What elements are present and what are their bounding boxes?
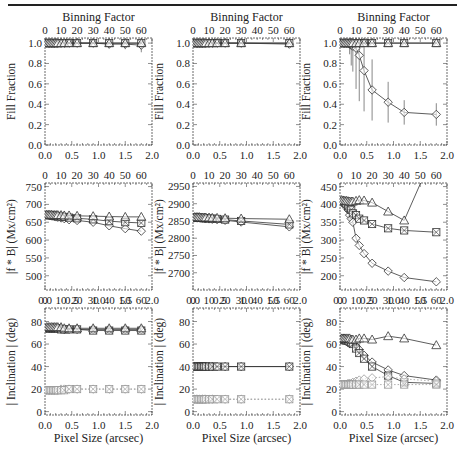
top-tick-label: 50 [120,24,132,36]
panel-r3c1: 0204060800.00.51.01.52.00102030405060Pix… [5,294,159,445]
x-tick-label: 1.5 [413,419,427,431]
y-tick-label: 2700 [168,267,191,279]
top-tick-label: 20 [367,169,379,181]
y-tick-label: 2800 [168,232,191,244]
y-axis-title: Fill Fraction [300,63,312,120]
x-tick-label: 0.0 [333,419,347,431]
top-tick-label: 20 [72,169,84,181]
x-tick-label: 1.0 [387,419,401,431]
y-tick-label: 2850 [168,215,191,227]
x-tick-label: 1.0 [387,149,401,161]
y-tick-label: 0.2 [176,119,190,131]
top-tick-label: 30 [236,294,248,306]
top-tick-label: 60 [136,24,148,36]
y-tick-label: 60 [179,338,191,350]
y-tick-label: 0.4 [323,98,337,110]
x-tick-label: 1.5 [266,419,280,431]
y-tick-label: 20 [326,383,338,395]
x-axis-title: Pixel Size (arcsec) [54,431,143,445]
top-tick-label: 60 [136,169,148,181]
top-tick-label: 20 [220,24,232,36]
top-tick-label: 10 [351,294,363,306]
y-tick-label: 80 [31,316,43,328]
x-tick-label: 2.0 [293,294,307,306]
panel-r2c1: 5005506006507007500.00.51.01.52.00102030… [5,169,159,306]
top-tick-label: 40 [399,294,411,306]
x-tick-label: 0.0 [186,419,200,431]
x-tick-label: 1.0 [92,419,106,431]
top-axis-title: Binning Factor [357,10,429,24]
top-tick-label: 30 [88,169,100,181]
top-tick-label: 60 [284,294,296,306]
y-axis-title: |f * B| (Mx/cm²) [5,199,18,274]
y-tick-label: 0 [332,406,338,418]
y-tick-label: 0.2 [323,119,337,131]
y-tick-label: 0.2 [28,119,42,131]
top-tick-label: 0 [337,169,343,181]
top-tick-label: 20 [72,294,84,306]
y-tick-label: 0.8 [323,57,337,69]
panel-r3c2: 0204060800.00.51.01.52.00102030405060Pix… [153,294,307,445]
top-tick-label: 30 [236,169,248,181]
y-tick-label: 500 [26,270,43,282]
y-tick-label: 750 [26,181,43,193]
y-tick-label: 450 [321,181,338,193]
y-tick-label: 1.0 [323,37,337,49]
top-tick-label: 30 [236,24,248,36]
top-tick-label: 40 [252,294,264,306]
y-tick-label: 550 [26,252,43,264]
y-tick-label: 40 [179,361,191,373]
x-tick-label: 1.5 [413,149,427,161]
x-tick-label: 0.5 [213,149,227,161]
x-tick-label: 2.0 [145,149,159,161]
y-tick-label: 0.4 [28,98,42,110]
y-tick-label: 60 [326,338,338,350]
top-tick-label: 50 [415,24,427,36]
top-tick-label: 30 [383,24,395,36]
y-tick-label: 0.4 [176,98,190,110]
top-tick-label: 0 [190,24,196,36]
top-tick-label: 20 [367,24,379,36]
top-tick-label: 60 [431,294,443,306]
top-tick-label: 60 [136,294,148,306]
top-tick-label: 0 [42,24,48,36]
top-tick-label: 60 [284,169,296,181]
top-tick-label: 0 [190,169,196,181]
figure-grid: 0.00.20.40.60.81.00.00.51.01.52.00102030… [0,0,465,451]
top-tick-label: 40 [104,294,116,306]
top-tick-label: 10 [204,294,216,306]
top-tick-label: 0 [337,24,343,36]
y-tick-label: 40 [326,361,338,373]
y-tick-label: 20 [31,383,43,395]
top-tick-label: 40 [399,169,411,181]
y-tick-label: 200 [321,270,338,282]
top-tick-label: 10 [56,294,68,306]
top-tick-label: 50 [120,169,132,181]
panel-r1c1: 0.00.20.40.60.81.00.00.51.01.52.00102030… [5,10,159,161]
y-tick-label: 250 [321,252,338,264]
top-tick-label: 20 [72,24,84,36]
y-tick-label: 20 [179,383,191,395]
x-tick-label: 0.5 [65,149,79,161]
y-tick-label: 0.8 [176,57,190,69]
top-tick-label: 10 [351,169,363,181]
y-axis-title: Fill Fraction [5,63,17,120]
y-tick-label: 2750 [168,249,191,261]
y-axis-title: | Inclination | (deg) [153,318,166,405]
y-tick-label: 0.6 [323,78,337,90]
top-tick-label: 50 [268,294,280,306]
y-tick-label: 60 [31,338,43,350]
y-tick-label: 2950 [168,180,191,192]
y-tick-label: 0.6 [176,78,190,90]
panel-r3c3: 0204060800.00.51.01.52.00102030405060Pix… [300,294,454,445]
x-tick-label: 0.5 [360,419,374,431]
y-tick-label: 2900 [168,198,191,210]
top-tick-label: 60 [431,169,443,181]
x-tick-label: 0.5 [360,149,374,161]
panel-r1c3: 0.00.20.40.60.81.00.00.51.01.52.00102030… [300,10,454,161]
y-tick-label: 700 [26,198,43,210]
y-axis-title: | Inclination | (deg) [300,318,313,405]
x-axis-title: Pixel Size (arcsec) [202,431,291,445]
top-tick-label: 50 [120,294,132,306]
top-tick-label: 40 [104,169,116,181]
